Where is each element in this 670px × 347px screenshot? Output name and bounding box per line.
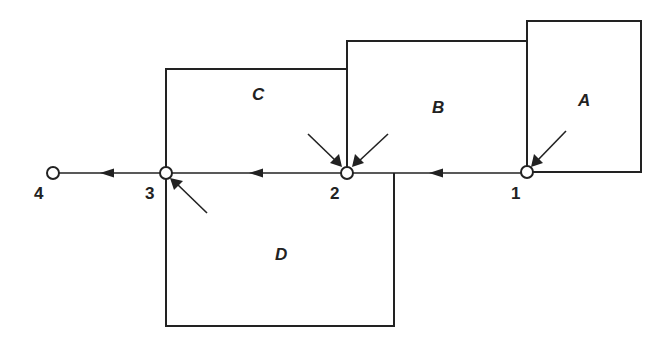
inflow-c-to-2 bbox=[308, 134, 337, 162]
region-c: C bbox=[166, 69, 347, 168]
node-3-circle bbox=[160, 167, 172, 179]
node-2-circle bbox=[341, 167, 353, 179]
main-channel bbox=[58, 169, 522, 178]
flow-arrow-3-to-4-icon bbox=[100, 169, 114, 178]
node-1-label: 1 bbox=[511, 184, 520, 203]
node-3-label: 3 bbox=[145, 184, 154, 203]
node-1: 1 bbox=[511, 166, 533, 203]
inflow-arrow-b-icon bbox=[352, 154, 364, 167]
flow-network-diagram: A B C D 1 bbox=[0, 0, 670, 347]
region-a-label: A bbox=[577, 91, 590, 110]
node-4: 4 bbox=[34, 167, 59, 203]
inflow-d-to-3 bbox=[176, 183, 207, 213]
region-b: B bbox=[347, 41, 527, 168]
region-b-label: B bbox=[432, 98, 444, 117]
region-a: A bbox=[527, 21, 641, 172]
flow-arrow-2-to-3-icon bbox=[249, 169, 263, 178]
node-1-circle bbox=[521, 166, 533, 178]
region-d-label: D bbox=[275, 245, 287, 264]
region-c-label: C bbox=[252, 85, 265, 104]
region-c-boundary bbox=[166, 69, 347, 168]
node-4-circle bbox=[47, 167, 59, 179]
node-4-label: 4 bbox=[34, 184, 44, 203]
inflow-b-to-2 bbox=[358, 134, 388, 162]
inflow-arrows bbox=[170, 131, 566, 213]
flow-arrow-1-to-2-icon bbox=[429, 169, 443, 178]
region-d: D bbox=[166, 173, 394, 326]
inflow-a-to-1 bbox=[536, 131, 566, 162]
node-2-label: 2 bbox=[330, 184, 339, 203]
